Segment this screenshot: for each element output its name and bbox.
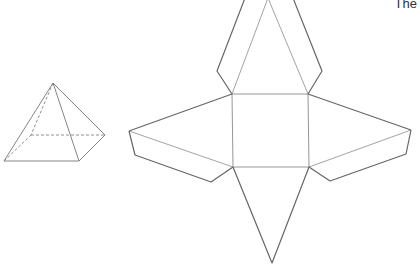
pyramid-net xyxy=(129,0,411,263)
right-flap-outline xyxy=(309,130,411,181)
edge-line xyxy=(53,83,105,135)
outline-line xyxy=(308,94,411,130)
left-flap-outline xyxy=(129,131,233,182)
fold-line xyxy=(232,0,268,94)
fold-line xyxy=(268,0,308,94)
edge-line xyxy=(53,83,79,161)
outline-line xyxy=(129,94,232,131)
top-flap-outline xyxy=(293,0,322,94)
fold-line xyxy=(309,130,411,167)
base-square xyxy=(232,94,309,167)
top-flap-outline xyxy=(217,0,245,94)
hidden-edge-line xyxy=(31,83,53,135)
edge-line xyxy=(79,135,105,161)
edge-line xyxy=(4,83,53,161)
pyramid-net-diagram xyxy=(0,0,420,264)
fold-line xyxy=(129,131,233,167)
square-pyramid-3d xyxy=(4,83,105,161)
bottom-triangle-outline xyxy=(233,167,309,263)
